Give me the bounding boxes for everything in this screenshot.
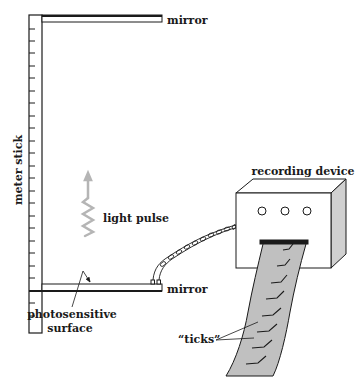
ticks-label: “ticks”: [178, 333, 220, 346]
photosensitive-label-line2: surface: [47, 322, 93, 335]
detector-contacts: [151, 280, 161, 284]
light-pulse-label: light pulse: [103, 212, 169, 225]
knob-icon: [258, 207, 266, 215]
photosensitive-label-line1: photosensitive: [27, 308, 117, 321]
top-mirror-label: mirror: [167, 14, 208, 27]
bottom-mirror: [29, 284, 162, 291]
knob-icon: [303, 207, 311, 215]
recording-device-label: recording device: [252, 165, 355, 178]
bottom-mirror-label: mirror: [167, 283, 208, 296]
clock-diagram: meter stick mirror mirror photosensitive…: [0, 0, 357, 389]
meter-stick: [29, 15, 42, 333]
light-pulse-arrow-icon: [83, 173, 93, 236]
tape-slot: [260, 240, 308, 244]
meter-stick-label: meter stick: [12, 135, 25, 205]
top-mirror: [42, 15, 162, 22]
twisted-cable: [153, 224, 237, 280]
knob-icon: [281, 207, 289, 215]
